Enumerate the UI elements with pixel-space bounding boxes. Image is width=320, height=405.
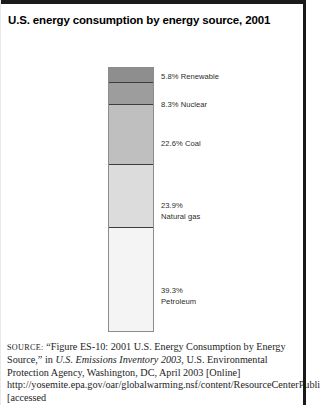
segment-label-natural-gas: 23.9% Natural gas [161, 201, 200, 222]
figure-container: U.S. energy consumption by energy source… [0, 0, 320, 405]
figure-top-rule [0, 0, 306, 4]
source-citation: SOURCE: “Figure ES-10: 2001 U.S. Energy … [7, 341, 299, 404]
bar-segment-nuclear [109, 83, 153, 105]
segment-label-coal: 22.6% Coal [161, 139, 201, 150]
bar-segment-renewable [109, 68, 153, 83]
bar-segment-petroleum [109, 228, 153, 331]
segment-label-nuclear: 8.3% Nuclear [161, 100, 207, 111]
segment-label-renewable: 5.8% Renewable [161, 72, 219, 83]
source-publication-title: U.S. Emissions Inventory 2003 [55, 354, 181, 365]
figure-right-rule [303, 0, 306, 405]
stacked-bar [108, 67, 154, 332]
stacked-bar-chart: 5.8% Renewable 8.3% Nuclear 22.6% Coal 2… [0, 48, 303, 338]
segment-label-petroleum: 39.3% Petroleum [161, 286, 196, 307]
figure-title: U.S. energy consumption by energy source… [8, 13, 298, 27]
bar-segment-coal [109, 105, 153, 164]
source-label: SOURCE: [7, 343, 44, 352]
bar-segment-natural-gas [109, 165, 153, 228]
